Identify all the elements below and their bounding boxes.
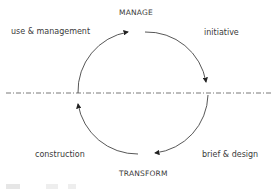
arc-bottom-right (155, 95, 208, 153)
label-construction: construction (35, 150, 85, 159)
label-brief-design: brief & design (202, 150, 258, 159)
label-initiative: initiative (204, 28, 239, 37)
label-use-management: use & management (11, 27, 90, 36)
arc-top-left (78, 32, 128, 93)
arc-bottom-left (78, 104, 138, 154)
arc-top-right (145, 32, 206, 82)
label-transform: TRANSFORM (119, 169, 168, 178)
cropped-caption (6, 184, 76, 189)
label-manage: MANAGE (119, 8, 153, 17)
